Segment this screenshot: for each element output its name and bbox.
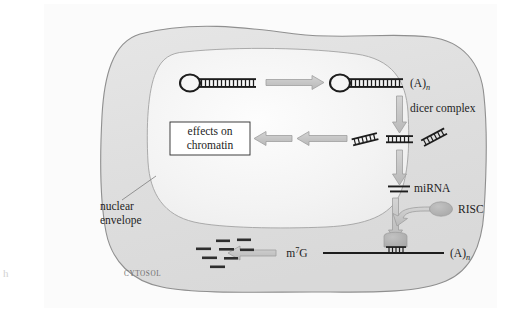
fragment: [237, 239, 251, 242]
fragment: [219, 248, 234, 251]
fragment: [240, 249, 254, 252]
figure-panel: (A)n dicer complex: [44, 4, 497, 308]
nuclear-envelope-label-line1: nuclear: [100, 200, 134, 212]
effects-box-line1: effects on: [188, 125, 233, 137]
pathway-diagram: (A)n dicer complex: [44, 4, 497, 308]
fragment: [216, 240, 230, 243]
risc-label: RISC: [458, 203, 484, 215]
dicer-complex-label: dicer complex: [410, 102, 476, 115]
figure-root: h: [0, 0, 525, 316]
polya-base: (A): [410, 77, 426, 90]
mirna-label: miRNA: [414, 182, 451, 194]
cytosol-label: CYTOSOL: [124, 270, 161, 278]
nuclear-envelope-label-line2: envelope: [100, 214, 142, 227]
m7g-base-pre: m: [286, 247, 295, 259]
page-margin-glyph: h: [3, 268, 9, 279]
hairpin-bottom-rail: [199, 86, 256, 88]
m7g-base-post: G: [299, 247, 307, 259]
polya-subscript: n: [426, 83, 430, 92]
fragment: [224, 257, 238, 260]
fragment: [202, 257, 217, 260]
fragment: [196, 248, 211, 251]
polya-base: (A): [450, 247, 466, 260]
risc-particle: [430, 202, 453, 216]
effects-box-line2: chromatin: [187, 139, 234, 151]
polya-subscript: n: [466, 253, 470, 262]
hairpin-top-rail: [199, 78, 256, 80]
fragment: [210, 266, 225, 269]
